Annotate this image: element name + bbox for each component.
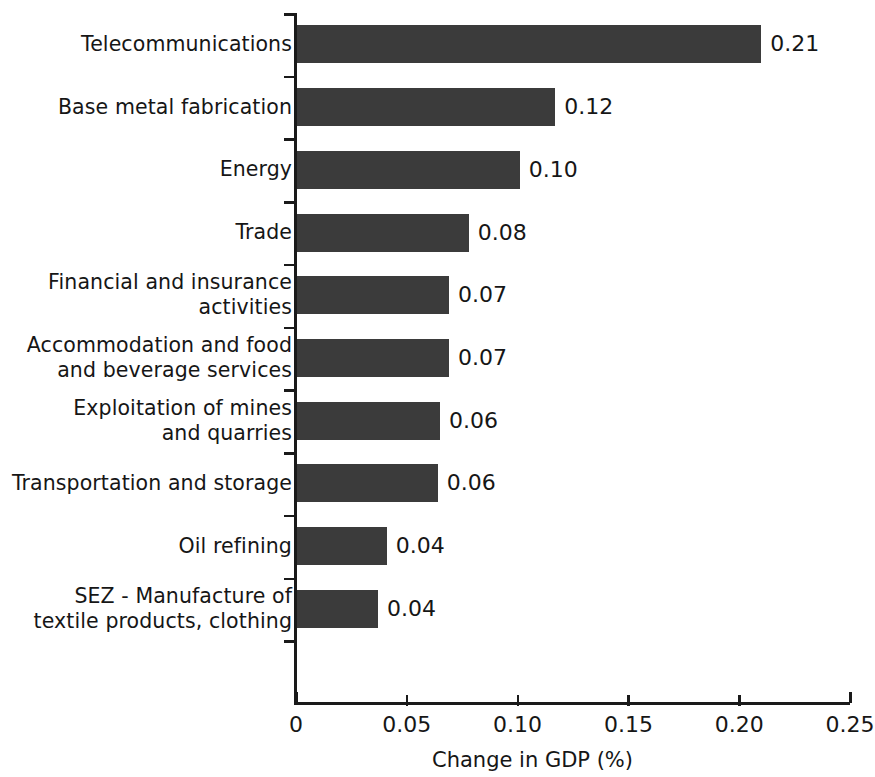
y-axis-category-label-line: Base metal fabrication xyxy=(58,95,292,120)
y-axis-category-label-line: SEZ - Manufacture of xyxy=(74,584,292,609)
bar xyxy=(296,402,440,440)
bar xyxy=(296,276,449,314)
bar xyxy=(296,151,520,189)
y-axis-tick xyxy=(284,640,295,643)
y-axis-category-label-line: activities xyxy=(199,295,292,320)
y-axis-tick xyxy=(284,264,295,267)
x-axis-tick xyxy=(406,695,409,706)
y-axis-category-label-line: Financial and insurance xyxy=(48,270,292,295)
bar-value-label: 0.06 xyxy=(447,472,496,494)
y-axis-tick xyxy=(284,201,295,204)
x-axis-title-text: Change in GDP (%) xyxy=(432,748,633,773)
y-axis-category-label: Base metal fabrication xyxy=(58,95,292,120)
x-axis-tick-label: 0.10 xyxy=(493,712,542,738)
bar-value-label: 0.07 xyxy=(458,284,507,306)
y-axis-category-label-line: Exploitation of mines xyxy=(73,396,292,421)
y-axis-category-label-line: Trade xyxy=(235,220,292,245)
bar xyxy=(296,88,555,126)
bar-value-label: 0.12 xyxy=(564,96,613,118)
x-axis-tick-label: 0.15 xyxy=(604,712,653,738)
x-axis-tick xyxy=(627,695,630,706)
y-axis-category-label-line: textile products, clothing xyxy=(34,609,292,634)
y-axis-category-label-line: Telecommunications xyxy=(81,32,292,57)
y-axis-category-label-line: Energy xyxy=(220,157,292,182)
bar xyxy=(296,527,387,565)
y-axis-category-label: Energy xyxy=(220,157,292,182)
bar xyxy=(296,339,449,377)
y-axis-category-label: Telecommunications xyxy=(81,32,292,57)
bar xyxy=(296,214,469,252)
x-axis-tick-label: 0 xyxy=(289,712,303,738)
x-axis-title: Change in GDP (%) xyxy=(0,748,875,773)
bar-value-label: 0.06 xyxy=(449,410,498,432)
x-axis-tick xyxy=(517,695,520,706)
bar xyxy=(296,25,761,63)
x-axis-tick xyxy=(295,692,298,703)
x-axis-tick xyxy=(738,695,741,706)
y-axis-category-label: Transportation and storage xyxy=(12,471,292,496)
x-axis-tick-label: 0.20 xyxy=(715,712,764,738)
bar-value-label: 0.21 xyxy=(770,33,819,55)
y-axis-tick xyxy=(284,452,295,455)
y-axis-category-label-line: Transportation and storage xyxy=(12,471,292,496)
y-axis-category-label: Trade xyxy=(235,220,292,245)
y-axis-category-label: Oil refining xyxy=(179,534,292,559)
y-axis-tick xyxy=(284,515,295,518)
bar-value-label: 0.04 xyxy=(396,535,445,557)
y-axis-category-label: Exploitation of minesand quarries xyxy=(73,396,292,446)
y-axis-category-label-line: and beverage services xyxy=(57,358,292,383)
x-axis-tick-label: 0.25 xyxy=(826,712,875,738)
y-axis-line xyxy=(294,13,297,704)
y-axis-category-label: Financial and insuranceactivities xyxy=(48,270,292,320)
x-axis-line xyxy=(294,702,850,705)
y-axis-tick xyxy=(284,389,295,392)
bar-value-label: 0.08 xyxy=(478,222,527,244)
bar xyxy=(296,464,438,502)
x-axis-tick-label: 0.05 xyxy=(382,712,431,738)
y-axis-category-label: Accommodation and foodand beverage servi… xyxy=(27,333,292,383)
y-axis-tick xyxy=(284,76,295,79)
y-axis-tick xyxy=(284,578,295,581)
y-axis-category-label-line: Oil refining xyxy=(179,534,292,559)
y-axis-category-label-line: and quarries xyxy=(162,421,292,446)
y-axis-tick xyxy=(284,327,295,330)
y-axis-tick xyxy=(284,13,295,16)
bar xyxy=(296,590,378,628)
x-axis-tick xyxy=(849,692,852,703)
y-axis-category-label-line: Accommodation and food xyxy=(27,333,292,358)
y-axis-category-label: SEZ - Manufacture oftextile products, cl… xyxy=(34,584,292,634)
bar-value-label: 0.07 xyxy=(458,347,507,369)
bar-value-label: 0.10 xyxy=(529,159,578,181)
bar-value-label: 0.04 xyxy=(387,598,436,620)
y-axis-tick xyxy=(284,138,295,141)
bar-chart: Telecommunications Base metal fabricatio… xyxy=(0,0,875,777)
